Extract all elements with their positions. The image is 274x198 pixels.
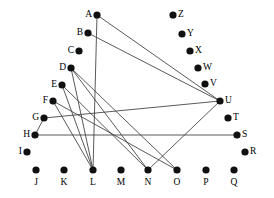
node-label-a: A [83,10,92,20]
node-label-y: Y [187,29,194,39]
node-label-p: P [198,178,214,188]
graph-node-z[interactable] [169,11,176,18]
graph-node-f[interactable] [49,97,56,104]
node-label-s: S [242,130,247,140]
node-label-k: K [56,178,72,188]
graph-node-c[interactable] [75,47,82,54]
node-label-d: D [57,63,66,73]
node-label-q: Q [226,178,242,188]
node-label-c: C [65,46,74,56]
node-label-r: R [250,147,256,157]
node-label-w: W [203,63,212,73]
node-label-j: J [28,178,44,188]
node-label-l: L [85,178,101,188]
graph-node-a[interactable] [93,11,100,18]
graph-node-o[interactable] [173,166,180,173]
graph-edge [62,85,148,170]
graph-node-n[interactable] [144,166,151,173]
graph-node-r[interactable] [241,148,248,155]
graph-node-g[interactable] [40,114,47,121]
graph-node-w[interactable] [194,64,201,71]
node-label-t: T [233,113,239,123]
graph-edge [71,68,177,170]
graph-node-y[interactable] [178,30,185,37]
node-label-x: X [195,46,202,56]
graph-edge [53,101,93,170]
graph-node-m[interactable] [117,166,124,173]
graph-node-l[interactable] [89,166,96,173]
node-label-e: E [48,80,57,90]
edge-layer [35,15,237,170]
graph-figure: ABCDEFGHIJKLMNOPQRSTUVWXYZ [0,0,274,198]
graph-node-s[interactable] [233,131,240,138]
graph-edge [71,68,148,170]
graph-node-v[interactable] [201,80,208,87]
graph-edge [148,101,220,170]
graph-node-j[interactable] [32,166,39,173]
graph-node-k[interactable] [60,166,67,173]
graph-node-p[interactable] [202,166,209,173]
graph-node-u[interactable] [216,97,223,104]
node-label-b: B [74,28,83,38]
graph-node-b[interactable] [84,29,91,36]
node-label-g: G [30,113,39,123]
node-label-z: Z [178,10,184,20]
graph-edge [97,15,220,101]
node-label-f: F [39,96,48,106]
graph-node-h[interactable] [31,131,38,138]
graph-node-q[interactable] [230,166,237,173]
node-label-v: V [210,79,217,89]
node-label-u: U [225,96,232,106]
node-layer [23,11,248,173]
graph-edge [44,101,220,118]
node-label-h: H [21,130,30,140]
node-label-m: M [113,178,129,188]
graph-node-t[interactable] [224,114,231,121]
graph-node-i[interactable] [23,148,30,155]
graph-node-x[interactable] [186,47,193,54]
node-label-n: N [140,178,156,188]
node-label-i: I [13,147,22,157]
graph-node-d[interactable] [67,64,74,71]
graph-node-e[interactable] [58,81,65,88]
node-label-o: O [169,178,185,188]
